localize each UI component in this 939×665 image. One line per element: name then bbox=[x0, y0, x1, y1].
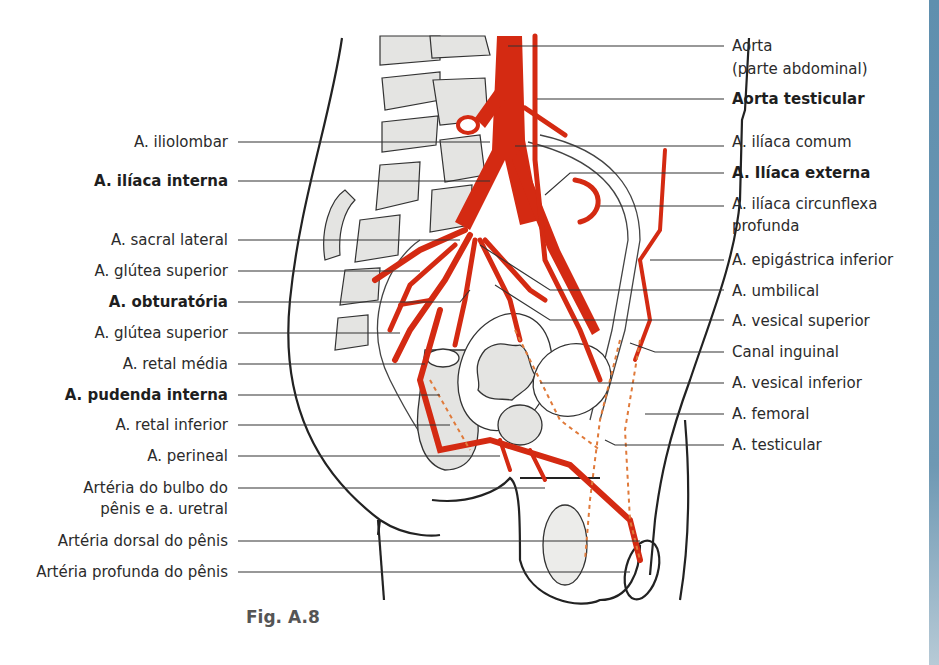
label-canal-inguinal: Canal inguinal bbox=[732, 343, 839, 361]
label-aorta: Aorta bbox=[732, 37, 772, 55]
label-epigastrica-inferior: A. epigástrica inferior bbox=[732, 251, 893, 269]
label-umbilical: A. umbilical bbox=[732, 282, 819, 300]
label-vesical-superior: A. vesical superior bbox=[732, 312, 870, 330]
label-iliaca-comum: A. ilíaca comum bbox=[732, 133, 852, 151]
label-retal-media: A. retal média bbox=[123, 355, 228, 373]
label-glutea-superior-1: A. glútea superior bbox=[94, 262, 228, 280]
label-retal-inferior: A. retal inferior bbox=[116, 416, 228, 434]
label-iliaca-circunflexa-line1: A. ilíaca circunflexa bbox=[732, 195, 877, 213]
label-aorta-testicular: Aorta testicular bbox=[732, 90, 865, 108]
label-femoral: A. femoral bbox=[732, 405, 809, 423]
label-iliaca-externa: A. Ilíaca externa bbox=[732, 164, 870, 182]
label-perineal: A. perineal bbox=[147, 447, 228, 465]
label-glutea-superior-2: A. glútea superior bbox=[94, 324, 228, 342]
label-obturatoria: A. obturatória bbox=[109, 293, 228, 311]
label-vesical-inferior: A. vesical inferior bbox=[732, 374, 862, 392]
label-dorsal-penis: Artéria dorsal do pênis bbox=[58, 532, 228, 550]
label-iliolombar: A. iliolombar bbox=[134, 133, 228, 151]
label-profunda-penis: Artéria profunda do pênis bbox=[36, 563, 228, 581]
label-iliaca-interna: A. ilíaca interna bbox=[94, 172, 228, 190]
label-sacral-lateral: A. sacral lateral bbox=[111, 231, 228, 249]
label-bulbo-penis-line2: pênis e a. uretral bbox=[100, 500, 228, 518]
label-testicular: A. testicular bbox=[732, 436, 822, 454]
label-aorta-parte-abdominal: (parte abdominal) bbox=[732, 60, 868, 78]
figure-caption: Fig. A.8 bbox=[246, 607, 320, 627]
label-pudenda-interna: A. pudenda interna bbox=[65, 386, 228, 404]
label-iliaca-circunflexa-line2: profunda bbox=[732, 217, 800, 235]
label-bulbo-penis-line1: Artéria do bulbo do bbox=[83, 479, 228, 497]
